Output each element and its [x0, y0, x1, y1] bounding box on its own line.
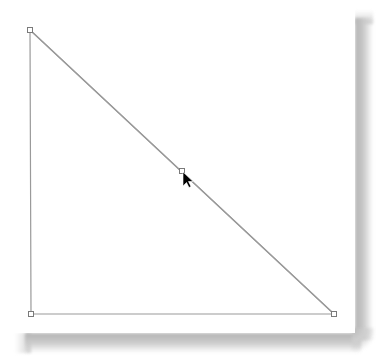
vertex-handle-bottom-left[interactable] [29, 312, 34, 317]
vertex-handle-bottom-right[interactable] [332, 312, 337, 317]
arrow-cursor-icon [183, 172, 193, 188]
drawing-stage [0, 0, 385, 363]
drawing-canvas[interactable] [0, 0, 385, 363]
vertex-handle-top-left[interactable] [28, 28, 33, 33]
